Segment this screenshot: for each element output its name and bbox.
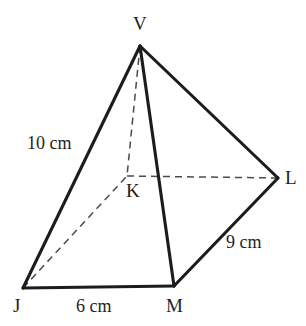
pyramid-drawing-canvas [0, 0, 306, 326]
edge-V-M-solid [140, 46, 174, 286]
vertex-label-K: K [126, 181, 140, 200]
vertex-label-L: L [285, 168, 297, 187]
edge-J-M-solid [23, 286, 174, 288]
edge-K-L-dashed [127, 176, 278, 178]
vertex-label-J: J [13, 296, 20, 315]
edge-V-J-solid [23, 46, 140, 288]
measure-label-slant-edge-JV: 10 cm [27, 134, 72, 152]
edge-V-L-solid [140, 46, 278, 178]
measure-label-base-edge-JM: 6 cm [76, 297, 112, 315]
vertex-label-M: M [166, 296, 183, 315]
vertex-label-V: V [133, 14, 147, 33]
pyramid-diagram: V J M L K 10 cm 9 cm 6 cm [0, 0, 306, 326]
measure-label-base-edge-ML: 9 cm [226, 233, 262, 251]
edge-J-K-dashed [23, 176, 127, 288]
